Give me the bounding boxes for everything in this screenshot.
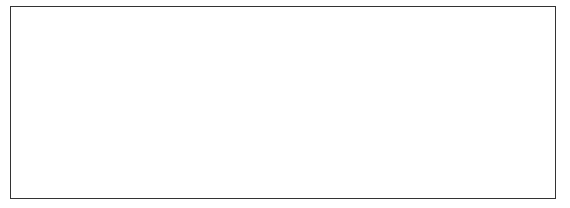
tree-edges: [0, 0, 570, 208]
